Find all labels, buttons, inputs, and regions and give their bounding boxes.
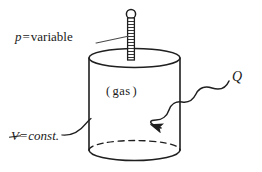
volume-label: V=const. [11, 129, 59, 142]
rod-knob-icon [126, 9, 135, 18]
pressure-value: variable [31, 29, 73, 44]
volume-value: const. [28, 128, 59, 143]
piston-rod-assembly [126, 9, 135, 60]
rigid-vessel [89, 49, 180, 161]
figure-container: p=variable V=const. (gas) Q [0, 0, 262, 172]
gas-close-paren: ) [132, 84, 137, 98]
vessel-bottom-front-edge [89, 150, 180, 161]
pressure-symbol: p [15, 29, 22, 44]
gas-open-paren: ( [106, 84, 111, 98]
pressure-leader-line [96, 36, 128, 43]
pressure-equals-sign: = [22, 29, 31, 44]
gas-text: gas [111, 84, 133, 98]
heat-label: Q [232, 70, 242, 84]
vessel-bottom-hidden-edge [89, 141, 180, 151]
gas-contents-label: (gas) [106, 85, 137, 98]
pressure-label: p=variable [15, 30, 73, 43]
volume-symbol: V [11, 129, 19, 142]
wavy-heat-arrow [151, 81, 229, 128]
volume-leader-line [62, 119, 91, 136]
